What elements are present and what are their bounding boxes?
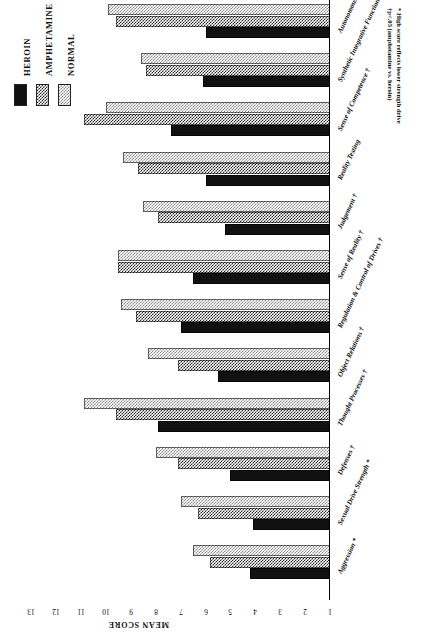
bar-normal bbox=[141, 53, 330, 64]
bar-amphetamine bbox=[116, 16, 330, 27]
axis-tick-8: 8 bbox=[149, 607, 163, 616]
bar-amphetamine bbox=[198, 508, 330, 519]
axis-tick-2: 2 bbox=[298, 607, 312, 616]
footnote-line-2: †p<.05 (amphetamine vs. heroin) bbox=[386, 8, 395, 158]
bar-normal bbox=[193, 545, 330, 556]
category-label: Aggression * bbox=[336, 537, 360, 575]
bar-amphetamine bbox=[116, 409, 330, 420]
bar-heroin bbox=[181, 322, 330, 333]
bar-normal bbox=[156, 447, 330, 458]
axis-title: MEAN SCORE bbox=[108, 620, 169, 629]
axis-tick-4: 4 bbox=[248, 607, 262, 616]
bar-normal bbox=[121, 299, 330, 310]
bar-amphetamine bbox=[178, 360, 330, 371]
bar-heroin bbox=[230, 470, 330, 481]
bar-amphetamine bbox=[118, 262, 330, 273]
bar-normal bbox=[108, 4, 330, 15]
category-label: Reality Testing bbox=[336, 138, 362, 181]
bar-heroin bbox=[225, 224, 330, 235]
bar-group bbox=[0, 299, 330, 333]
bar-normal bbox=[118, 250, 330, 261]
category-label: Regulation & Control of Drives † bbox=[336, 236, 385, 329]
bar-normal bbox=[106, 102, 330, 113]
bar-group bbox=[0, 398, 330, 432]
bar-heroin bbox=[158, 421, 330, 432]
bar-group bbox=[0, 348, 330, 382]
bar-heroin bbox=[206, 27, 331, 38]
category-label: Defenses † bbox=[336, 444, 357, 477]
bar-amphetamine bbox=[146, 65, 330, 76]
bar-amphetamine bbox=[84, 114, 331, 125]
axis-tick-13: 13 bbox=[24, 607, 38, 616]
bar-group bbox=[0, 250, 330, 284]
bar-heroin bbox=[203, 76, 330, 87]
axis-tick-11: 11 bbox=[74, 607, 88, 616]
bar-normal bbox=[143, 201, 330, 212]
plot-area bbox=[0, 0, 330, 600]
bar-amphetamine bbox=[158, 212, 330, 223]
bar-amphetamine bbox=[138, 163, 330, 174]
category-label: Judgement † bbox=[336, 193, 359, 231]
bar-heroin bbox=[253, 519, 330, 530]
axis-tick-7: 7 bbox=[174, 607, 188, 616]
bar-group bbox=[0, 201, 330, 235]
bar-normal bbox=[148, 348, 330, 359]
axis-tick-10: 10 bbox=[99, 607, 113, 616]
bar-heroin bbox=[206, 175, 331, 186]
axis-baseline bbox=[329, 0, 330, 600]
bar-normal bbox=[123, 152, 330, 163]
axis-tick-6: 6 bbox=[199, 607, 213, 616]
bar-heroin bbox=[218, 371, 330, 382]
bar-group bbox=[0, 152, 330, 186]
bar-amphetamine bbox=[136, 311, 330, 322]
bar-group bbox=[0, 447, 330, 481]
bar-heroin bbox=[171, 125, 330, 136]
bar-group bbox=[0, 545, 330, 579]
axis-tick-9: 9 bbox=[124, 607, 138, 616]
bar-group bbox=[0, 496, 330, 530]
bar-amphetamine bbox=[210, 557, 330, 568]
footnote-line-1: * High score reflects lower strength dri… bbox=[395, 8, 404, 158]
bar-heroin bbox=[193, 273, 330, 284]
bar-group bbox=[0, 102, 330, 136]
bar-heroin bbox=[250, 568, 330, 579]
bar-normal bbox=[181, 496, 330, 507]
bar-chart: HEROIN AMPHETAMINE NORMAL 13121110987654… bbox=[0, 0, 428, 640]
axis-tick-1: 1 bbox=[323, 607, 337, 616]
bar-amphetamine bbox=[178, 458, 330, 469]
bar-normal bbox=[84, 398, 331, 409]
axis-tick-12: 12 bbox=[49, 607, 63, 616]
bar-group bbox=[0, 53, 330, 87]
axis-tick-3: 3 bbox=[273, 607, 287, 616]
chart-footnote: * High score reflects lower strength dri… bbox=[386, 8, 404, 158]
axis-tick-5: 5 bbox=[223, 607, 237, 616]
bar-group bbox=[0, 4, 330, 38]
